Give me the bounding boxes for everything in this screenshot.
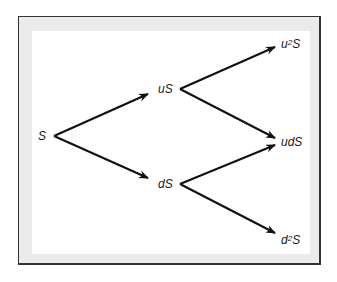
edge-uS-udS [180, 89, 275, 138]
node-S: S [38, 130, 46, 142]
edge-dS-d2S [180, 184, 275, 233]
node-d2S-tail: S [292, 233, 300, 247]
node-u2S: u2S [281, 38, 300, 50]
edge-dS-udS [180, 145, 275, 184]
node-dS: dS [158, 178, 173, 190]
node-d2S: d2S [281, 234, 300, 246]
edge-S-dS [54, 136, 148, 178]
edge-S-uS [54, 94, 148, 136]
node-d2S-base: d [281, 233, 288, 247]
node-uS: uS [158, 83, 173, 95]
edge-uS-u2S [180, 47, 275, 89]
node-u2S-tail: S [292, 37, 300, 51]
node-udS: udS [281, 136, 302, 148]
node-u2S-base: u [281, 37, 288, 51]
